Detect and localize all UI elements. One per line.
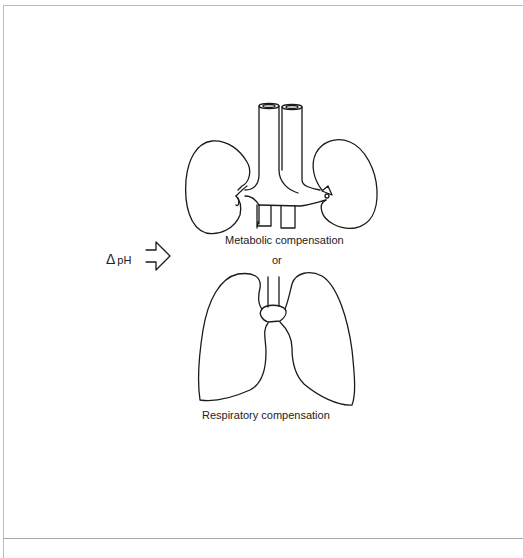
kidneys-illustration — [186, 103, 377, 233]
respiratory-compensation-label: Respiratory compensation — [202, 409, 330, 421]
ph-text: pH — [117, 254, 131, 266]
delta-ph-label: ΔpH — [106, 251, 131, 267]
hollow-arrow-icon — [146, 242, 170, 270]
metabolic-compensation-label: Metabolic compensation — [225, 234, 344, 246]
or-connector-label: or — [272, 254, 282, 266]
lungs-illustration — [199, 273, 355, 405]
delta-symbol: Δ — [106, 251, 115, 267]
diagram-canvas — [0, 0, 523, 558]
